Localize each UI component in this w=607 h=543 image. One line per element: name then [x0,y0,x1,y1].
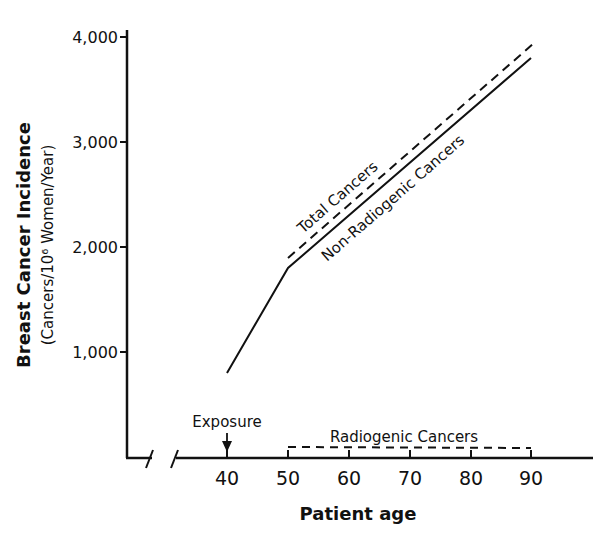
y-tick-label: 2,000 [72,238,118,257]
x-tick-label: 90 [519,467,543,489]
y-axis-title: Breast Cancer Incidence [13,122,34,368]
x-tick-labels: 40 50 60 70 80 90 [215,467,543,489]
y-axis-subtitle: (Cancers/10⁶ Women/Year) [39,145,57,346]
x-axis-title: Patient age [300,503,417,524]
series-total-line [288,44,533,258]
y-tick-label: 1,000 [72,343,118,362]
x-tick-label: 80 [459,467,483,489]
exposure-annotation: Exposure [192,413,261,431]
x-tick-label: 70 [398,467,422,489]
x-tick-label: 40 [215,467,239,489]
x-tick-label: 50 [276,467,300,489]
exposure-arrow-icon [222,433,232,452]
y-tick-label: 4,000 [72,28,118,47]
chart: 4,000 3,000 2,000 1,000 40 50 60 70 80 9… [0,0,607,543]
y-tick-labels: 4,000 3,000 2,000 1,000 [72,28,118,362]
series-radiogenic-line [288,447,531,448]
y-tick-label: 3,000 [72,133,118,152]
series-label-radiogenic: Radiogenic Cancers [330,428,478,446]
x-tick-label: 60 [337,467,361,489]
